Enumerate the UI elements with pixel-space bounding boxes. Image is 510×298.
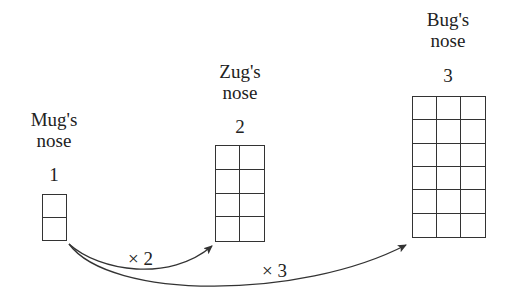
arrows-layer [0,0,510,298]
arrow-times-3 [69,244,406,286]
times-3-label: × 3 [262,261,287,281]
times-2-label: × 2 [128,249,153,269]
